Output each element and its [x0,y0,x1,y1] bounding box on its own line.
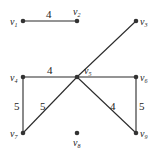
vertex-v8 [75,131,80,136]
vertex-label-v8: v8 [73,137,80,149]
vertex-v1 [21,19,26,24]
vertex-v7 [21,131,26,136]
vertex-label-v5: v5 [84,65,91,77]
edge-weight-label: 4 [110,100,116,112]
vertex-v4 [21,75,26,80]
edge-weight-label: 5 [139,100,145,112]
vertex-label-v1: v1 [10,16,17,28]
edge-weight-label: 4 [46,8,52,20]
vertex-label-v2: v2 [73,6,80,18]
graph-diagram: 445545 v1v2v3v4v5v6v7v8v9 [0,0,156,157]
vertex-v3 [134,19,139,24]
edge-weight-label: 5 [14,100,20,112]
vertex-label-v3: v3 [140,16,147,28]
vertex-v5 [75,75,80,80]
edge-v5-v9 [77,77,136,133]
vertex-label-v6: v6 [140,72,147,84]
vertex-label-v4: v4 [10,72,17,84]
vertex-v2 [75,19,80,24]
edge-weight-label: 5 [40,100,46,112]
edge-weight-label: 4 [47,64,53,76]
edges [23,21,136,133]
edge-weights: 445545 [14,8,145,112]
vertex-v9 [134,131,139,136]
vertex-v6 [134,75,139,80]
vertex-label-v7: v7 [10,128,18,140]
edge-v5-v7 [23,77,77,133]
vertex-label-v9: v9 [140,128,147,140]
